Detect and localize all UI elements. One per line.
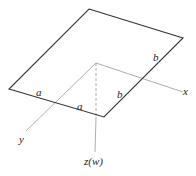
z-axis xyxy=(95,117,96,152)
edge-label-a-right: a xyxy=(77,101,83,112)
z-axis-label: z(w) xyxy=(84,156,103,167)
y-axis-label: y xyxy=(19,134,24,145)
edge-label-b-upper: b xyxy=(153,52,159,63)
x-axis xyxy=(96,63,183,92)
edge-label-a-left: a xyxy=(36,87,42,98)
plate-diagram: a a b b x y z(w) xyxy=(0,0,196,176)
edge-label-b-lower: b xyxy=(117,89,123,100)
diagram-canvas xyxy=(0,0,196,176)
x-axis-label: x xyxy=(183,86,188,97)
